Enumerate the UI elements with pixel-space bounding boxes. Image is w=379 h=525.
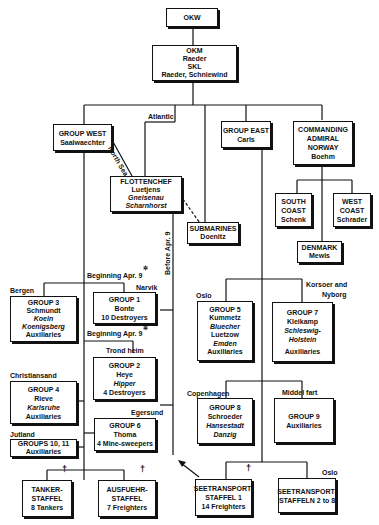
adm-norway-line: COMMANDING: [298, 125, 348, 134]
tanker-line: TANKER-: [32, 485, 63, 494]
group2-line: Hipper: [113, 379, 135, 388]
dagger-icon: †: [246, 464, 251, 473]
group7-line: Kleikamp: [287, 317, 318, 326]
group5-box: GROUP 5 Kummetz Bluecher Luetzow Emden A…: [197, 301, 253, 361]
flottenchef-commander: Luetjens: [132, 186, 161, 194]
group7-box: GROUP 7 Kleikamp Schleswig- Holstein Aux…: [272, 302, 333, 362]
trondheim-label: Trond heim: [106, 347, 144, 355]
seetransport1-line: STAFFEL 1: [205, 493, 242, 502]
west-coast-line: Schrader: [337, 215, 367, 224]
okm-line: OKM: [186, 47, 202, 55]
group5-line: Luetzow: [211, 331, 239, 340]
group-east-box: GROUP EAST Carls: [221, 121, 271, 148]
group4-box: GROUP 4 Rieve Karlsruhe Auxiliaries: [10, 381, 77, 424]
group2-box: GROUP 2 Heye Hipper 4 Destroyers: [93, 357, 156, 400]
group2-line: Heye: [116, 370, 133, 379]
egersund-label: Egersund: [131, 409, 163, 417]
group9-line: GROUP 9: [288, 412, 319, 421]
west-coast-line: WEST: [342, 197, 362, 206]
group4-line: Karlsruhe: [27, 403, 60, 412]
group7-line: GROUP 7: [287, 308, 318, 317]
okm-line: SKL: [188, 63, 202, 71]
south-coast-line: Schenk: [281, 215, 306, 224]
group3-box: GROUP 3 Schmundt Koeln Koenigsberg Auxil…: [10, 296, 77, 342]
west-coast-line: COAST: [340, 206, 365, 215]
group2-line: GROUP 2: [109, 361, 140, 370]
narvik-label: Narvik: [136, 284, 157, 292]
group1-box: GROUP 1 Bonte 10 Destroyers: [93, 292, 156, 324]
group5-line: GROUP 5: [209, 306, 240, 315]
tanker-line: 8 Tankers: [31, 503, 63, 512]
denmark-box: DENMARK Mewis: [297, 241, 342, 263]
group8-line: GROUP 8: [209, 403, 240, 412]
group5-line: Emden: [213, 340, 236, 349]
groups10-11-line: GROUPS 10, 11: [18, 440, 69, 448]
south-coast-line: COAST: [281, 206, 306, 215]
group7-line: Holstein: [289, 335, 317, 344]
seetransport-2-8-box: SEETRANSPORT- STAFFELN 2 to 8: [278, 478, 336, 513]
beginning-apr9-label-b: Beginning Apr. 9: [87, 330, 142, 338]
atlantic-label: Atlantic: [148, 113, 174, 121]
submarines-title: SUBMARINES: [189, 225, 236, 233]
west-coast-box: WEST COAST Schrader: [333, 193, 371, 227]
group1-line: 10 Destroyers: [101, 313, 147, 322]
south-coast-box: SOUTH COAST Schenk: [275, 193, 312, 227]
seetransport-1-box: SEETRANSPORT- STAFFEL 1 14 Freighters: [195, 479, 252, 516]
oslo-seetransport-label: Oslo: [322, 469, 338, 477]
flottenchef-title: FLOTTENCHEF: [120, 178, 171, 186]
group6-box: GROUP 6 Thoma 4 Mine-sweepers: [94, 418, 156, 451]
tanker-line: STAFFEL: [32, 494, 63, 503]
denmark-title: DENMARK: [302, 244, 338, 252]
group8-line: Schroeder: [208, 412, 243, 421]
seetransport2-8-line: SEETRANSPORT-: [277, 487, 337, 496]
group4-line: Rieve: [34, 394, 53, 403]
group5-line: Bluecher: [210, 323, 240, 332]
group9-box: GROUP 9 Auxiliaries: [274, 398, 334, 443]
group5-line: Kummetz: [209, 314, 241, 323]
denmark-commander: Mewis: [309, 252, 330, 260]
korsoer-label: Korsoer and: [306, 281, 347, 289]
group8-box: GROUP 8 Schroeder Hansestadt Danzig: [197, 398, 253, 444]
groups10-11-box: GROUPS 10, 11 Auxiliaries: [10, 439, 77, 457]
submarines-commander: Doenitz: [200, 233, 225, 241]
okw-box: OKW: [166, 8, 218, 27]
flottenchef-box: FLOTTENCHEF Luetjens Gneisenau Scharnhor…: [110, 176, 182, 212]
flottenchef-ship: Gneisenau: [128, 194, 164, 202]
group5-line: Auxiliaries: [207, 348, 242, 357]
star-icon: ✲: [143, 264, 148, 272]
ausfuehr-line: 7 Freighters: [107, 503, 147, 512]
okm-box: OKM Raeder SKL Raeder, Schniewind: [152, 45, 237, 81]
ausfuehr-line: STAFFEL: [112, 494, 143, 503]
okw-label: OKW: [183, 13, 200, 22]
group3-line: GROUP 3: [28, 299, 59, 307]
group4-line: Auxiliaries: [26, 412, 61, 421]
copenhagen-label: Copenhagen: [187, 390, 229, 398]
south-coast-line: SOUTH: [281, 197, 306, 206]
christiansand-label: Christiansand: [10, 372, 57, 380]
dagger-icon: †: [140, 465, 145, 474]
group7-line: Auxiliaries: [285, 347, 320, 356]
group-west-box: GROUP WEST Saalwaechter: [53, 124, 112, 151]
group8-line: Hansestadt: [206, 421, 244, 430]
group7-line: Schleswig-: [284, 326, 321, 335]
adm-norway-line: ADMIRAL: [307, 134, 339, 143]
group1-line: Bonte: [115, 304, 135, 313]
group6-line: 4 Mine-sweepers: [97, 439, 153, 448]
seetransport2-8-line: STAFFELN 2 to 8: [279, 496, 335, 505]
group9-line: Auxiliaries: [286, 421, 321, 430]
flottenchef-ship: Scharnhorst: [125, 202, 166, 210]
adm-norway-line: NORWAY: [308, 143, 339, 152]
before-apr9-label: Before Apr. 9: [164, 232, 172, 275]
jutland-label: Jutland: [10, 431, 35, 439]
dagger-icon: †: [62, 465, 67, 474]
group1-line: GROUP 1: [109, 295, 140, 304]
group2-line: 4 Destroyers: [103, 388, 145, 397]
group3-line: Koeln: [34, 315, 53, 323]
group3-line: Koenigsberg: [22, 323, 65, 331]
seetransport1-line: 14 Freighters: [202, 502, 246, 511]
group3-line: Auxiliaries: [26, 331, 61, 339]
group4-line: GROUP 4: [28, 385, 59, 394]
group-east-commander: Carls: [237, 135, 255, 144]
middelfart-label: Middel fart: [282, 389, 317, 397]
bergen-label: Bergen: [10, 287, 34, 295]
